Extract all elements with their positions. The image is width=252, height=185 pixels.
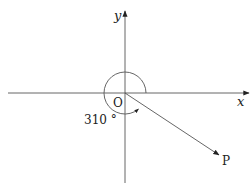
angle-diagram: y x O 310 ° P: [0, 0, 252, 185]
angle-label: 310 °: [84, 113, 117, 127]
x-axis-label: x: [237, 94, 245, 109]
point-p-label: P: [222, 154, 230, 168]
ray-op: [125, 93, 219, 155]
origin-label: O: [113, 96, 123, 110]
y-axis-label: y: [113, 8, 122, 23]
